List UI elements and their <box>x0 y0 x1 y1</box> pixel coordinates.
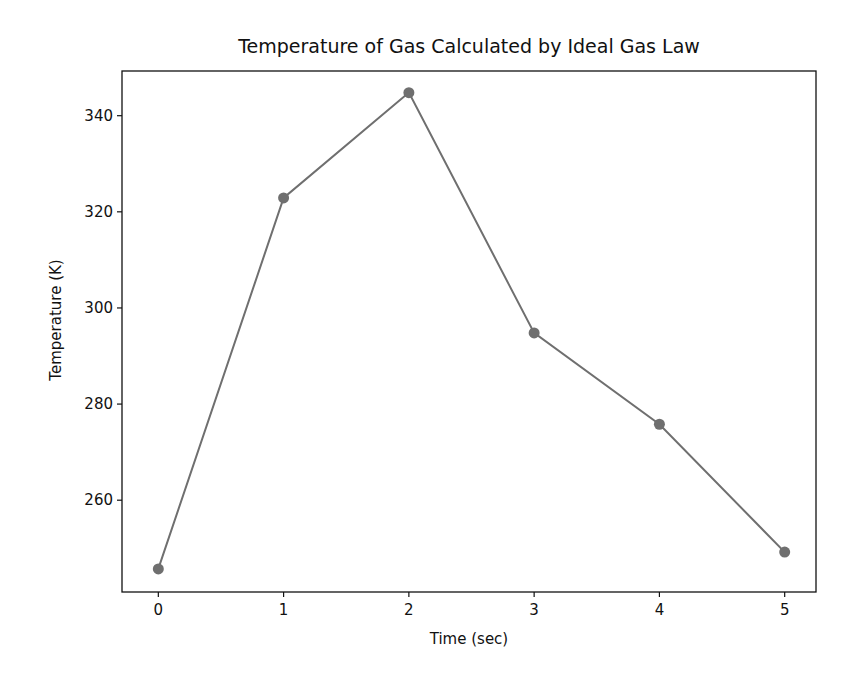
x-tick-label: 1 <box>279 601 289 619</box>
y-tick-label: 320 <box>84 203 113 221</box>
data-point <box>654 419 665 430</box>
x-axis-label: Time (sec) <box>429 630 508 648</box>
y-axis-label: Temperature (K) <box>47 259 65 381</box>
plot-frame <box>122 71 816 592</box>
x-tick-label: 4 <box>655 601 665 619</box>
x-tick-label: 5 <box>780 601 790 619</box>
data-point <box>153 563 164 574</box>
y-tick-label: 260 <box>84 491 113 509</box>
y-axis: 260280300320340 <box>84 107 122 510</box>
data-point <box>403 87 414 98</box>
chart-title: Temperature of Gas Calculated by Ideal G… <box>237 35 700 57</box>
x-tick-label: 0 <box>154 601 164 619</box>
x-tick-label: 2 <box>404 601 414 619</box>
y-tick-label: 340 <box>84 107 113 125</box>
data-point <box>278 192 289 203</box>
y-tick-label: 300 <box>84 299 113 317</box>
plot-area <box>122 71 816 592</box>
series-line <box>158 93 784 569</box>
x-tick-label: 3 <box>529 601 539 619</box>
chart: Temperature of Gas Calculated by Ideal G… <box>0 0 854 681</box>
x-axis: 012345 <box>154 592 790 619</box>
y-tick-label: 280 <box>84 395 113 413</box>
data-point <box>779 547 790 558</box>
data-point <box>529 327 540 338</box>
